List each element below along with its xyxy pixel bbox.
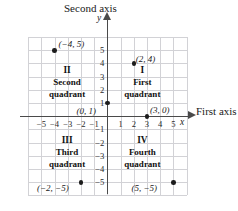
x-tick-label-2: 2 xyxy=(127,119,141,129)
quadrant-name-line1-first: First xyxy=(111,76,173,88)
quadrant-name-line2-third: quadrant xyxy=(36,158,98,170)
quadrant-roman-first: I xyxy=(111,64,173,76)
point-dot-3-0 xyxy=(145,114,150,119)
point-dot-neg2-neg5 xyxy=(79,180,84,185)
point-label-neg4-5: (−4, 5) xyxy=(59,39,85,49)
x-tick-label-4: 4 xyxy=(153,119,167,129)
point-label-neg2-neg5: (−2, −5) xyxy=(37,183,69,193)
quadrant-name-line2-second: quadrant xyxy=(36,88,98,100)
x-axis-arrow-icon xyxy=(188,111,196,119)
x-axis-line xyxy=(20,116,190,117)
quadrant-label-third: III Third quadrant xyxy=(36,134,98,171)
coordinate-plane-figure: Second axis First axis y x −5 −4 −3 −2 −… xyxy=(0,0,238,211)
x-tick-label-neg3: −3 xyxy=(61,119,75,129)
x-tick-label-neg2: −2 xyxy=(74,119,88,129)
quadrant-name-line2-first: quadrant xyxy=(111,88,173,100)
y-tick-label-neg5: −5 xyxy=(92,177,104,187)
quadrant-roman-fourth: IV xyxy=(111,134,173,146)
quadrant-name-line1-fourth: Fourth xyxy=(111,146,173,158)
point-label-5-neg5: (5, −5) xyxy=(131,183,157,193)
gridline-horizontal xyxy=(28,195,186,196)
quadrant-roman-third: III xyxy=(36,134,98,146)
x-tick-label-neg5: −5 xyxy=(34,119,48,129)
x-tick-label-1: 1 xyxy=(114,119,128,129)
quadrant-roman-second: II xyxy=(36,64,98,76)
x-tick-label-neg4: −4 xyxy=(48,119,62,129)
y-axis-letter: y xyxy=(97,13,101,23)
point-dot-0-1 xyxy=(105,101,110,106)
point-dot-5-neg5 xyxy=(171,180,176,185)
point-label-3-0: (3, 0) xyxy=(150,105,170,115)
point-label-0-1: (0, 1) xyxy=(76,106,96,116)
y-tick-label-5: 5 xyxy=(92,45,104,55)
horizontal-axis-title: First axis xyxy=(196,105,237,117)
quadrant-label-fourth: IV Fourth quadrant xyxy=(111,134,173,171)
quadrant-name-line2-fourth: quadrant xyxy=(111,158,173,170)
y-axis-line xyxy=(107,18,108,194)
x-axis-letter: x xyxy=(180,117,184,127)
vertical-axis-title: Second axis xyxy=(64,2,117,14)
quadrant-label-second: II Second quadrant xyxy=(36,64,98,101)
point-label-2-4: (2, 4) xyxy=(136,54,156,64)
quadrant-label-first: I First quadrant xyxy=(111,64,173,101)
x-tick-label-5: 5 xyxy=(166,119,180,129)
point-dot-neg4-5 xyxy=(52,48,57,53)
x-tick-label-3: 3 xyxy=(140,119,154,129)
quadrant-name-line1-second: Second xyxy=(36,76,98,88)
quadrant-name-line1-third: Third xyxy=(36,146,98,158)
